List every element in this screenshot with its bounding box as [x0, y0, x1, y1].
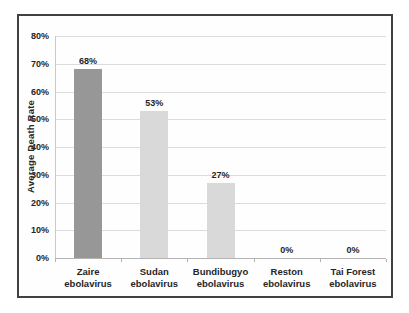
x-category-label-line: Reston	[254, 266, 320, 278]
x-axis-labels: ZaireebolavirusSudanebolavirusBundibugyo…	[19, 16, 391, 296]
x-category-label-line: Zaire	[55, 266, 121, 278]
x-category-label: Zaireebolavirus	[55, 266, 121, 290]
x-category-label: Bundibugyoebolavirus	[187, 266, 253, 290]
x-category-label-line: Sudan	[121, 266, 187, 278]
x-category-label-line: Bundibugyo	[187, 266, 253, 278]
x-category-label-line: ebolavirus	[254, 278, 320, 290]
x-category-label: Sudanebolavirus	[121, 266, 187, 290]
x-category-label-line: ebolavirus	[121, 278, 187, 290]
page: { "chart_data": { "type": "bar", "title"…	[0, 0, 409, 313]
x-category-label: Tai Forestebolavirus	[320, 266, 386, 290]
x-category-label-line: Tai Forest	[320, 266, 386, 278]
x-category-label: Restonebolavirus	[254, 266, 320, 290]
x-category-label-line: ebolavirus	[187, 278, 253, 290]
chart-frame: Average Death Rate 0%10%20%30%40%50%60%7…	[17, 14, 393, 298]
x-category-label-line: ebolavirus	[55, 278, 121, 290]
x-category-label-line: ebolavirus	[320, 278, 386, 290]
